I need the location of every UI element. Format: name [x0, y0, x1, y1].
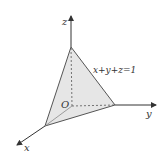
tetrahedron-diagram: z y x O x+y+z=1: [0, 0, 166, 163]
x-axis-label: x: [24, 142, 30, 153]
origin-label: O: [61, 99, 69, 110]
y-axis-label: y: [145, 108, 152, 119]
plane-triangle: [45, 47, 115, 126]
plane-equation-label: x+y+z=1: [93, 65, 136, 75]
x-axis: [17, 126, 45, 145]
z-axis-label: z: [61, 16, 68, 27]
